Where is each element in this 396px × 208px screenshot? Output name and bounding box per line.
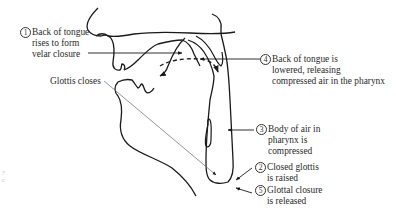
label-text: pharynx is xyxy=(256,135,320,146)
label-text: velar closure xyxy=(20,49,89,60)
label-text: compressed air in the pharynx xyxy=(260,76,385,87)
label-text: lowered, releasing xyxy=(260,65,385,76)
pointer-5 xyxy=(236,188,252,193)
pointer-2 xyxy=(236,168,252,180)
jaw-outline xyxy=(118,80,154,93)
tongue-body-outline xyxy=(160,38,185,76)
edge-mark: ? c xyxy=(2,170,5,184)
throat-front-outline xyxy=(115,82,196,196)
label-text: Body of air in xyxy=(268,124,320,134)
vocal-tract-diagram: 1Back of tongue rises to form velar clos… xyxy=(0,0,396,208)
label-text: rises to form xyxy=(20,38,89,49)
step-number-badge: 1 xyxy=(20,27,31,38)
label-text: Closed glottis xyxy=(267,162,319,172)
label-text: Glottis closes xyxy=(50,76,101,86)
back-of-head-outline xyxy=(212,14,221,34)
label-glottis-raised: 2Closed glottis is raised xyxy=(255,162,319,184)
nose-outline xyxy=(87,8,125,70)
label-text: is raised xyxy=(255,173,319,184)
step-number-badge: 2 xyxy=(255,162,266,173)
label-glottal-release: 5Glottal closure is released xyxy=(255,185,322,207)
label-text: compressed xyxy=(256,146,320,157)
label-glottis-closes: Glottis closes xyxy=(50,76,101,87)
palate-outline xyxy=(96,32,235,36)
edge-mark-text: c xyxy=(2,177,5,183)
label-velar-closure: 1Back of tongue rises to form velar clos… xyxy=(20,27,89,61)
label-text: Back of tongue is xyxy=(272,54,338,64)
label-air-compressed: 3Body of air in pharynx is compressed xyxy=(256,124,320,158)
label-text: Glottal closure xyxy=(267,185,322,195)
step-number-badge: 5 xyxy=(255,185,266,196)
step-number-badge: 4 xyxy=(260,54,271,65)
step-number-badge: 3 xyxy=(256,124,267,135)
label-tongue-lowered: 4Back of tongue is lowered, releasing co… xyxy=(260,54,385,88)
edge-mark-text: ? xyxy=(2,170,5,176)
label-text: is released xyxy=(255,196,322,207)
label-text: Back of tongue xyxy=(32,27,89,37)
